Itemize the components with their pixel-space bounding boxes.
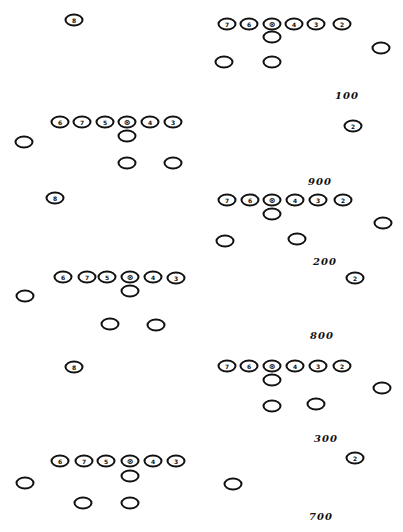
player-number: ⊗	[269, 363, 276, 369]
player-number: 3	[171, 119, 175, 125]
player-number: 8	[72, 364, 76, 370]
player-number: ⊗	[269, 21, 276, 27]
numbered-player-marker: 2	[346, 272, 365, 285]
numbered-player-marker: 2	[334, 194, 353, 207]
back-player-marker	[118, 157, 137, 170]
back-player-marker	[263, 208, 282, 221]
player-number: 8	[72, 17, 76, 23]
player-number: 7	[225, 197, 229, 203]
player-number: 5	[105, 274, 109, 280]
numbered-player-marker: 6	[51, 455, 70, 468]
player-number: 3	[316, 197, 320, 203]
numbered-player-marker: 6	[240, 360, 259, 373]
back-player-marker	[74, 497, 93, 510]
player-number: 4	[151, 458, 155, 464]
player-number: 2	[353, 275, 357, 281]
numbered-player-marker: 4	[141, 116, 160, 129]
back-player-marker	[16, 477, 35, 490]
player-number: 3	[174, 458, 178, 464]
player-number: 3	[314, 21, 318, 27]
player-number: 7	[225, 363, 229, 369]
numbered-player-marker: 2	[333, 360, 352, 373]
numbered-player-marker: 7	[218, 360, 237, 373]
center-player-marker: ⊗	[118, 116, 137, 129]
player-number: 5	[104, 458, 108, 464]
play-number-label: 200	[313, 256, 337, 267]
center-player-marker: ⊗	[121, 271, 140, 284]
play-number-label: 700	[309, 511, 333, 522]
back-player-marker	[263, 31, 282, 44]
play-number-label: 900	[308, 176, 332, 187]
player-number: 3	[316, 363, 320, 369]
back-player-marker	[118, 130, 137, 143]
player-number: 4	[293, 363, 297, 369]
player-number: 6	[58, 458, 62, 464]
player-number: 6	[61, 274, 65, 280]
player-number: 5	[103, 119, 107, 125]
player-number: ⊗	[127, 458, 134, 464]
back-player-marker	[263, 56, 282, 69]
player-number: 7	[225, 21, 229, 27]
back-player-marker	[121, 470, 140, 483]
player-number: 2	[340, 363, 344, 369]
back-player-marker	[224, 478, 243, 491]
player-number: ⊗	[124, 119, 131, 125]
back-player-marker	[15, 136, 34, 149]
back-player-marker	[16, 290, 35, 303]
back-player-marker	[121, 497, 140, 510]
numbered-player-marker: 3	[167, 455, 186, 468]
numbered-player-marker: 6	[51, 116, 70, 129]
player-number: 2	[353, 455, 357, 461]
back-player-marker	[215, 56, 234, 69]
player-number: 4	[292, 21, 296, 27]
player-number: 8	[53, 195, 57, 201]
numbered-player-marker: 4	[144, 271, 163, 284]
numbered-player-marker: 2	[344, 120, 363, 133]
numbered-player-marker: 7	[78, 271, 97, 284]
numbered-player-marker: 7	[218, 194, 237, 207]
numbered-player-marker: 8	[65, 14, 84, 27]
numbered-player-marker: 7	[218, 18, 237, 31]
numbered-player-marker: 3	[164, 116, 183, 129]
player-number: 2	[340, 21, 344, 27]
center-player-marker: ⊗	[121, 455, 140, 468]
back-player-marker	[263, 400, 282, 413]
player-number: 6	[58, 119, 62, 125]
player-number: 7	[85, 274, 89, 280]
player-number: 4	[148, 119, 152, 125]
numbered-player-marker: 8	[46, 192, 65, 205]
player-number: 2	[351, 123, 355, 129]
back-player-marker	[373, 382, 392, 395]
back-player-marker	[164, 157, 183, 170]
player-number: 3	[174, 275, 178, 281]
player-number: 6	[247, 21, 251, 27]
numbered-player-marker: 4	[286, 194, 305, 207]
numbered-player-marker: 5	[97, 455, 116, 468]
numbered-player-marker: 4	[144, 455, 163, 468]
back-player-marker	[288, 233, 307, 246]
numbered-player-marker: 3	[309, 360, 328, 373]
back-player-marker	[216, 235, 235, 248]
player-number: 7	[80, 119, 84, 125]
player-number: 4	[151, 274, 155, 280]
back-player-marker	[374, 217, 393, 230]
back-player-marker	[147, 319, 166, 332]
back-player-marker	[372, 42, 391, 55]
numbered-player-marker: 6	[241, 194, 260, 207]
numbered-player-marker: 4	[286, 360, 305, 373]
player-number: 2	[341, 197, 345, 203]
play-number-label: 800	[310, 330, 334, 341]
back-player-marker	[101, 318, 120, 331]
numbered-player-marker: 3	[167, 272, 186, 285]
numbered-player-marker: 7	[73, 116, 92, 129]
numbered-player-marker: 5	[98, 271, 117, 284]
back-player-marker	[263, 374, 282, 387]
numbered-player-marker: 7	[75, 455, 94, 468]
player-number: ⊗	[127, 274, 134, 280]
center-player-marker: ⊗	[263, 18, 282, 31]
numbered-player-marker: 3	[309, 194, 328, 207]
play-number-label: 300	[314, 433, 338, 444]
player-number: 7	[82, 458, 86, 464]
center-player-marker: ⊗	[263, 194, 282, 207]
back-player-marker	[307, 398, 326, 411]
